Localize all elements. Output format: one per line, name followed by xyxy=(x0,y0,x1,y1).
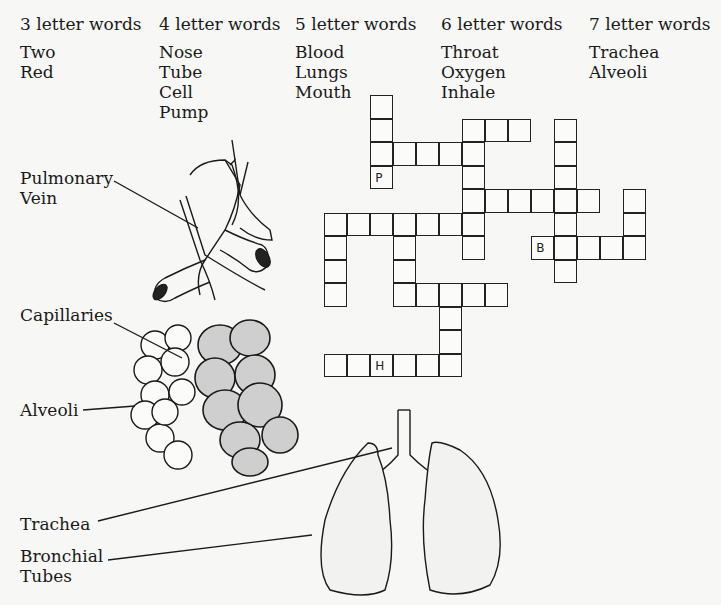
crossword-cell[interactable] xyxy=(531,189,554,213)
crossword-cell[interactable] xyxy=(623,236,646,260)
crossword-cell[interactable] xyxy=(577,236,600,260)
crossword-cell[interactable] xyxy=(623,189,646,213)
crossword-cell[interactable] xyxy=(393,260,416,284)
crossword-cell[interactable] xyxy=(623,213,646,237)
crossword-cell[interactable] xyxy=(393,142,416,166)
crossword-cell[interactable] xyxy=(370,142,393,166)
crossword-cell[interactable] xyxy=(577,189,600,213)
crossword-cell[interactable] xyxy=(485,119,508,143)
crossword-cell[interactable] xyxy=(393,213,416,237)
crossword-cell[interactable] xyxy=(324,283,347,307)
crossword-cell[interactable] xyxy=(416,354,439,378)
crossword-cell[interactable] xyxy=(462,189,485,213)
crossword-cell[interactable] xyxy=(416,283,439,307)
crossword-cell[interactable] xyxy=(439,142,462,166)
crossword-cell[interactable] xyxy=(600,236,623,260)
crossword-cell[interactable] xyxy=(370,213,393,237)
crossword-cell[interactable] xyxy=(439,330,462,354)
crossword-cell[interactable] xyxy=(393,236,416,260)
crossword-cell[interactable] xyxy=(462,119,485,143)
crossword-grid: PHB xyxy=(0,0,721,605)
crossword-cell[interactable] xyxy=(416,142,439,166)
crossword-cell[interactable] xyxy=(324,236,347,260)
crossword-cell[interactable] xyxy=(554,189,577,213)
crossword-cell[interactable]: B xyxy=(531,236,554,260)
crossword-cell[interactable] xyxy=(508,119,531,143)
crossword-cell[interactable] xyxy=(554,213,577,237)
crossword-cell[interactable]: H xyxy=(370,354,393,378)
crossword-cell[interactable] xyxy=(439,283,462,307)
crossword-cell[interactable] xyxy=(324,260,347,284)
crossword-cell[interactable]: P xyxy=(370,166,393,190)
crossword-cell[interactable] xyxy=(462,236,485,260)
crossword-cell[interactable] xyxy=(462,283,485,307)
crossword-cell[interactable] xyxy=(554,142,577,166)
crossword-cell[interactable] xyxy=(393,354,416,378)
crossword-cell[interactable] xyxy=(393,283,416,307)
crossword-cell[interactable] xyxy=(347,213,370,237)
crossword-cell[interactable] xyxy=(554,260,577,284)
crossword-cell[interactable] xyxy=(554,236,577,260)
crossword-cell[interactable] xyxy=(416,213,439,237)
crossword-cell[interactable] xyxy=(324,213,347,237)
crossword-cell[interactable] xyxy=(439,213,462,237)
crossword-cell[interactable] xyxy=(439,354,462,378)
crossword-cell[interactable] xyxy=(324,354,347,378)
crossword-cell[interactable] xyxy=(370,95,393,119)
crossword-cell[interactable] xyxy=(462,213,485,237)
crossword-cell[interactable] xyxy=(508,189,531,213)
crossword-cell[interactable] xyxy=(554,119,577,143)
crossword-cell[interactable] xyxy=(370,119,393,143)
crossword-cell[interactable] xyxy=(554,166,577,190)
crossword-cell[interactable] xyxy=(462,142,485,166)
crossword-cell[interactable] xyxy=(485,189,508,213)
crossword-cell[interactable] xyxy=(347,354,370,378)
crossword-cell[interactable] xyxy=(485,283,508,307)
crossword-cell[interactable] xyxy=(462,166,485,190)
crossword-cell[interactable] xyxy=(439,307,462,331)
